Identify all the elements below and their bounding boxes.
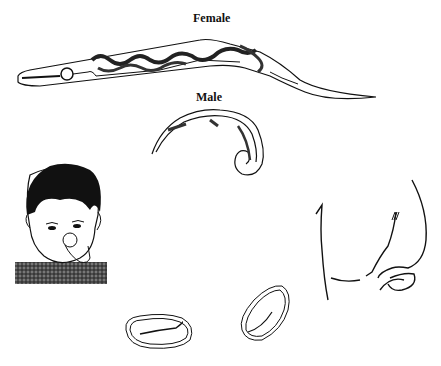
egg-2 (241, 286, 289, 341)
egg-1 (126, 314, 192, 348)
diagram-canvas (0, 0, 441, 366)
child (15, 164, 107, 284)
perianal-region (316, 180, 426, 300)
male-worm (152, 110, 263, 175)
female-worm (18, 40, 376, 99)
